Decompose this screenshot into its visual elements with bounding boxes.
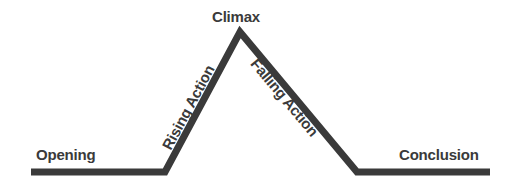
plot-diagram: Opening Climax Conclusion Rising Action …: [0, 0, 517, 189]
label-opening: Opening: [36, 147, 95, 162]
label-conclusion: Conclusion: [399, 147, 479, 162]
label-climax: Climax: [212, 9, 260, 24]
